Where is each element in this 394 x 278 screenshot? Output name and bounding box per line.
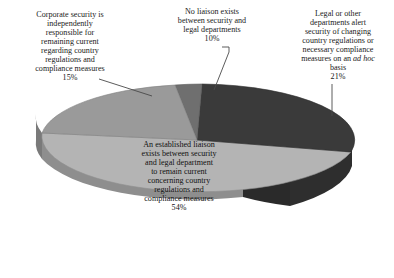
label-line: between security and <box>178 16 246 25</box>
slice-label-corporate-security: Corporate security is independently resp… <box>8 10 132 83</box>
label-line: responsible for <box>46 28 94 37</box>
slice-wall-corporate-security <box>36 114 42 159</box>
label-line: No liaison exists <box>185 7 239 16</box>
label-line: necessary compliance <box>303 45 374 54</box>
label-line: An established liaison <box>143 140 214 149</box>
label-line: concerning country <box>148 176 211 185</box>
slice-percent-no-liaison: 10% <box>160 34 264 43</box>
label-line: security of changing <box>305 27 371 36</box>
label-line: regarding country <box>41 46 99 55</box>
label-line: and legal department <box>145 158 213 167</box>
label-line: exists between security <box>141 149 216 158</box>
label-line: independently <box>47 19 93 28</box>
label-line: Legal or other <box>315 9 361 18</box>
slice-percent-corporate-security: 15% <box>8 73 132 82</box>
slice-label-no-liaison: No liaison exists between security and l… <box>160 7 264 43</box>
label-line: basis <box>330 63 346 72</box>
slice-percent-established-liaison: 54% <box>119 203 239 212</box>
label-line: departments alert <box>310 18 366 27</box>
label-line: regulations and <box>45 55 95 64</box>
slice-percent-ad-hoc: 21% <box>286 72 390 81</box>
label-line: regulations and <box>154 185 204 194</box>
slice-label-ad-hoc: Legal or other departments alert securit… <box>286 9 390 82</box>
label-line: to remain current <box>151 167 207 176</box>
slice-top-corporate-security <box>42 85 197 140</box>
label-emphasis: ad hoc <box>353 54 375 63</box>
label-line: legal departments <box>183 25 240 34</box>
slice-label-established-liaison: An established liaison exists between se… <box>119 140 239 213</box>
label-line: Corporate security is <box>36 10 103 19</box>
label-line: compliance measures <box>144 194 213 203</box>
label-line: country regulations or <box>302 36 373 45</box>
pie-chart-figure: Corporate security is independently resp… <box>0 0 394 278</box>
leader-line-no-liaison <box>214 47 229 90</box>
label-line-pre: measures on an <box>301 54 353 63</box>
label-line: compliance measures <box>35 64 104 73</box>
label-line: remaining current <box>41 37 99 46</box>
